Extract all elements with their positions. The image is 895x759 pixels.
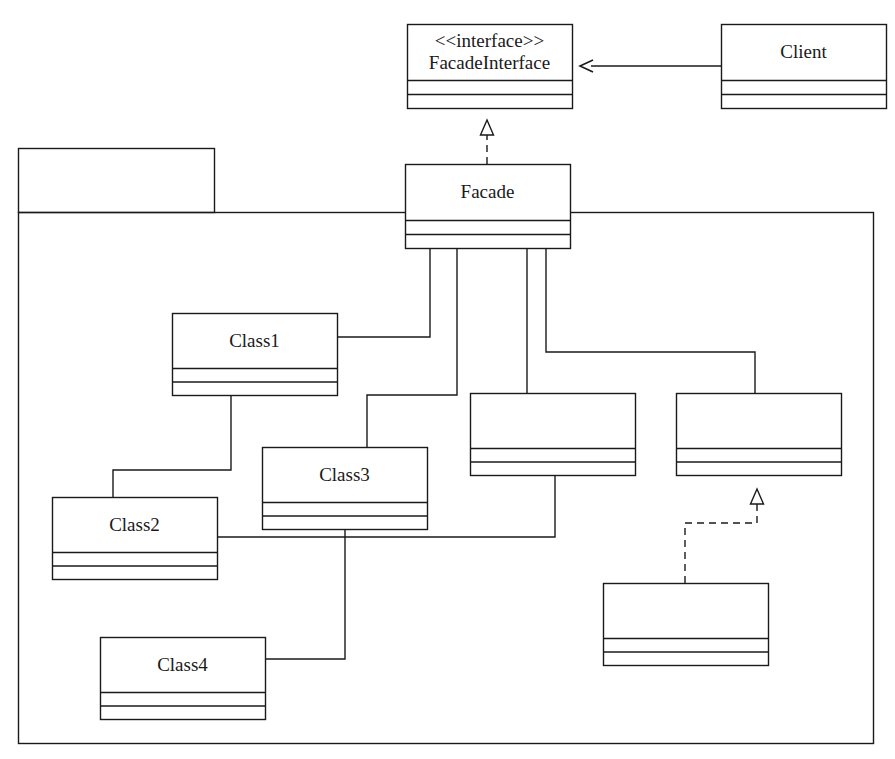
class-box-unnamed-bottom[interactable] [604, 584, 769, 666]
class-box-outline [408, 25, 573, 109]
connection-unnamed-bottom-realizes-unnamed-right[interactable] [685, 489, 764, 583]
class-box-unnamed-right[interactable] [677, 394, 842, 476]
connection-line [685, 503, 757, 583]
class-box-outline [471, 394, 636, 476]
connection-line [367, 248, 457, 447]
uml-diagram-canvas: <<interface>> FacadeInterfaceClientFacad… [0, 0, 895, 759]
connection-line [546, 248, 755, 393]
connection-class3-to-class4[interactable] [265, 529, 345, 659]
hollow-triangle-arrowhead [751, 489, 764, 504]
class-box-class2[interactable] [53, 498, 218, 580]
class-box-class4[interactable] [101, 638, 266, 720]
class-box-facade[interactable] [406, 165, 571, 249]
connection-facade-to-class3[interactable] [367, 248, 457, 447]
class-box-unnamed-left[interactable] [471, 394, 636, 476]
class-box-client[interactable] [722, 25, 887, 109]
connection-client-to-facadeinterface[interactable] [580, 60, 721, 72]
connection-line [337, 248, 430, 337]
connection-facade-to-unnamed-right[interactable] [546, 248, 755, 393]
class-box-outline [604, 584, 769, 666]
class-box-outline [406, 165, 571, 249]
class-box-class1[interactable] [173, 314, 338, 396]
class-box-outline [722, 25, 887, 109]
connection-line [265, 529, 345, 659]
connection-class1-to-class2[interactable] [113, 395, 231, 497]
class-box-class3[interactable] [263, 448, 428, 530]
package-tab [19, 149, 215, 213]
connection-facade-to-class1[interactable] [337, 248, 430, 337]
hollow-triangle-arrowhead [481, 120, 494, 135]
connection-facade-realizes-facadeinterface[interactable] [481, 120, 494, 164]
class-box-facade-interface[interactable] [408, 25, 573, 109]
class-box-outline [677, 394, 842, 476]
class-box-outline [173, 314, 338, 396]
class-box-outline [101, 638, 266, 720]
diagram-vector-layer [0, 0, 895, 759]
class-box-outline [53, 498, 218, 580]
class-box-outline [263, 448, 428, 530]
connection-line [113, 395, 231, 497]
